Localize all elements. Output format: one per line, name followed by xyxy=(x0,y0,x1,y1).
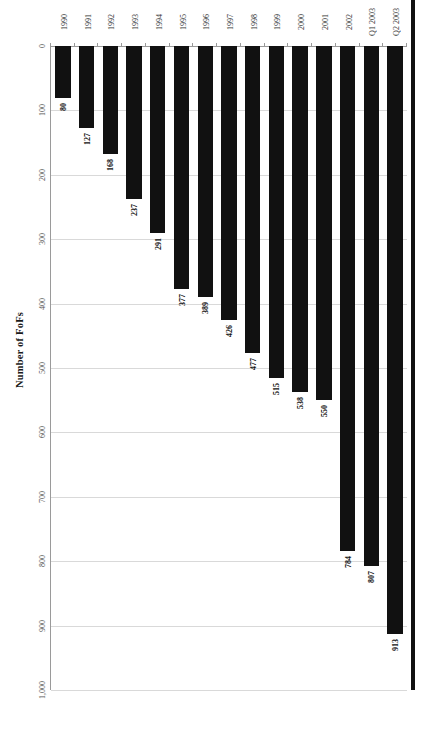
plot-area: 9138077845505385154774263893772912371681… xyxy=(51,46,407,690)
bar-value-label: 784 xyxy=(343,556,352,568)
bar xyxy=(293,46,308,392)
bar xyxy=(150,46,165,233)
bar-value-label: 80 xyxy=(58,103,67,111)
value-tick-label: 800 xyxy=(38,555,47,567)
category-label: 1999 xyxy=(273,2,282,42)
bar xyxy=(126,46,141,199)
category-label: 2001 xyxy=(321,2,330,42)
category-label: 1996 xyxy=(202,2,211,42)
value-tick-label: 700 xyxy=(38,491,47,503)
value-tick-label: 400 xyxy=(38,298,47,310)
bar xyxy=(221,46,236,320)
bar-value-label: 538 xyxy=(296,397,305,409)
category-tick xyxy=(192,43,193,46)
bar-row: 807 xyxy=(360,46,384,690)
value-tick-label: 500 xyxy=(38,362,47,374)
category-tick xyxy=(216,43,217,46)
category-tick xyxy=(264,43,265,46)
bar-value-label: 377 xyxy=(177,294,186,306)
bar-row: 550 xyxy=(312,46,336,690)
bar-value-label: 913 xyxy=(391,639,400,651)
category-label: 1990 xyxy=(60,2,69,42)
value-tick-label: 0 xyxy=(38,44,47,48)
category-label: 1993 xyxy=(131,2,140,42)
bar-value-label: 477 xyxy=(248,358,257,370)
bar-row: 168 xyxy=(99,46,123,690)
category-label: 2000 xyxy=(297,2,306,42)
category-label: 1995 xyxy=(179,2,188,42)
category-tick xyxy=(169,43,170,46)
bar xyxy=(103,46,118,154)
category-tick xyxy=(335,43,336,46)
bar-value-label: 389 xyxy=(201,302,210,314)
bar-value-label: 127 xyxy=(82,133,91,145)
bar-value-label: 807 xyxy=(367,571,376,583)
category-tick xyxy=(311,43,312,46)
bar xyxy=(198,46,213,297)
bar xyxy=(174,46,189,289)
value-tick-label: 600 xyxy=(38,426,47,438)
bar-row: 291 xyxy=(146,46,170,690)
category-tick xyxy=(359,43,360,46)
category-label: 2002 xyxy=(345,2,354,42)
value-tick-label: 900 xyxy=(38,620,47,632)
bar xyxy=(340,46,355,551)
category-tick xyxy=(97,43,98,46)
category-label: 1994 xyxy=(155,2,164,42)
bar-row: 477 xyxy=(241,46,265,690)
bar-row: 127 xyxy=(75,46,99,690)
value-tick-label: 300 xyxy=(38,233,47,245)
bar-chart-figure: 9138077845505385154774263893772912371681… xyxy=(0,0,421,754)
bar-row: 515 xyxy=(265,46,289,690)
category-tick xyxy=(287,43,288,46)
bar-value-label: 168 xyxy=(106,159,115,171)
bar-row: 538 xyxy=(288,46,312,690)
gridline xyxy=(51,690,407,691)
bar-value-label: 515 xyxy=(272,383,281,395)
bar xyxy=(245,46,260,353)
category-axis-line xyxy=(50,46,51,690)
value-tick-label: 100 xyxy=(38,104,47,116)
category-tick xyxy=(121,43,122,46)
category-label: 1991 xyxy=(84,2,93,42)
value-tick-label: 200 xyxy=(38,169,47,181)
category-tick xyxy=(382,43,383,46)
axis-title: Number of FoFs xyxy=(14,200,25,500)
category-tick xyxy=(240,43,241,46)
category-label: Q2 2003 xyxy=(392,2,401,42)
bar-value-label: 550 xyxy=(319,405,328,417)
bar xyxy=(387,46,402,634)
category-tick xyxy=(145,43,146,46)
bar-value-label: 291 xyxy=(153,238,162,250)
bar-row: 80 xyxy=(51,46,75,690)
bar-row: 426 xyxy=(217,46,241,690)
category-tick xyxy=(74,43,75,46)
scanned-page: 9138077845505385154774263893772912371681… xyxy=(0,0,421,754)
bar xyxy=(269,46,284,378)
category-label: Q1 2003 xyxy=(368,2,377,42)
value-tick-label: 1,000 xyxy=(38,681,47,699)
bar xyxy=(316,46,331,400)
category-tick xyxy=(406,43,407,46)
bar-value-label: 237 xyxy=(130,204,139,216)
bar xyxy=(79,46,94,128)
bar-row: 913 xyxy=(383,46,407,690)
category-label: 1992 xyxy=(107,2,116,42)
bar-row: 377 xyxy=(170,46,194,690)
bar-row: 389 xyxy=(193,46,217,690)
bar xyxy=(364,46,379,566)
bar xyxy=(55,46,70,98)
category-tick xyxy=(50,43,51,46)
bar-value-label: 426 xyxy=(225,325,234,337)
bar-row: 784 xyxy=(336,46,360,690)
bar-row: 237 xyxy=(122,46,146,690)
category-label: 1997 xyxy=(226,2,235,42)
category-label: 1998 xyxy=(250,2,259,42)
